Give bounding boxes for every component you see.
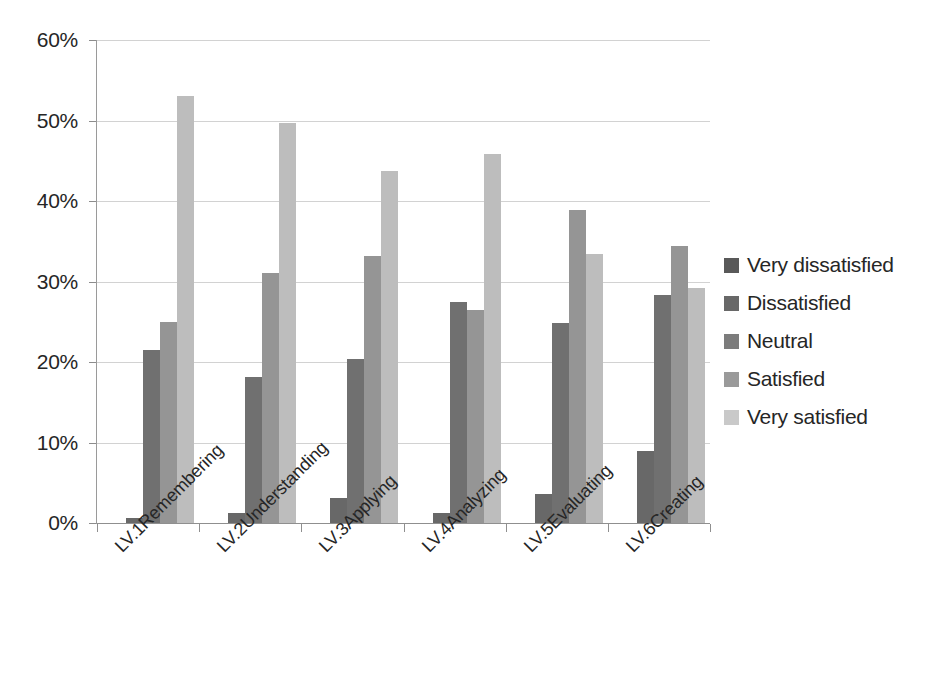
- legend-label: Very satisfied: [747, 405, 868, 429]
- y-tick-label: 50%: [37, 109, 78, 133]
- y-tick-label: 20%: [37, 350, 78, 374]
- legend-label: Neutral: [747, 329, 813, 353]
- legend-swatch-icon: [724, 296, 739, 311]
- legend-item[interactable]: Satisfied: [724, 360, 939, 398]
- bar-chart: 0%10%20%30%40%50%60% LV.1RememberingLV.2…: [0, 0, 946, 683]
- legend-item[interactable]: Neutral: [724, 322, 939, 360]
- bar-group: [416, 40, 501, 523]
- legend-label: Satisfied: [747, 367, 825, 391]
- y-tick-mark: [89, 282, 96, 283]
- bar: [552, 323, 569, 523]
- bar: [569, 210, 586, 523]
- legend-label: Very dissatisfied: [747, 253, 894, 277]
- legend-item[interactable]: Very satisfied: [724, 398, 939, 436]
- bar: [381, 171, 398, 523]
- y-tick-label: 10%: [37, 431, 78, 455]
- y-tick-mark: [89, 40, 96, 41]
- legend-swatch-icon: [724, 258, 739, 273]
- bar-group: [620, 40, 705, 523]
- legend-item[interactable]: Very dissatisfied: [724, 246, 939, 284]
- x-tick-mark: [301, 524, 302, 532]
- x-tick-mark: [199, 524, 200, 532]
- x-tick-mark: [97, 524, 98, 532]
- legend-label: Dissatisfied: [747, 291, 851, 315]
- y-tick-mark: [89, 201, 96, 202]
- x-tick-mark: [506, 524, 507, 532]
- y-tick-label: 0%: [48, 511, 78, 535]
- bar: [177, 96, 194, 523]
- x-tick-mark: [608, 524, 609, 532]
- y-tick-label: 30%: [37, 270, 78, 294]
- y-tick-mark: [89, 523, 96, 524]
- bar: [450, 302, 467, 523]
- x-tick-mark: [710, 524, 711, 532]
- legend-swatch-icon: [724, 372, 739, 387]
- bar-group: [109, 40, 194, 523]
- y-axis: 0%10%20%30%40%50%60%: [0, 0, 88, 683]
- legend-swatch-icon: [724, 334, 739, 349]
- legend: Very dissatisfiedDissatisfiedNeutralSati…: [724, 246, 939, 436]
- bar-group: [518, 40, 603, 523]
- y-tick-mark: [89, 362, 96, 363]
- y-tick-mark: [89, 121, 96, 122]
- x-tick-mark: [404, 524, 405, 532]
- y-tick-mark: [89, 443, 96, 444]
- plot-area: [97, 40, 710, 523]
- legend-item[interactable]: Dissatisfied: [724, 284, 939, 322]
- y-tick-label: 40%: [37, 189, 78, 213]
- y-tick-label: 60%: [37, 28, 78, 52]
- legend-swatch-icon: [724, 410, 739, 425]
- bar: [654, 295, 671, 523]
